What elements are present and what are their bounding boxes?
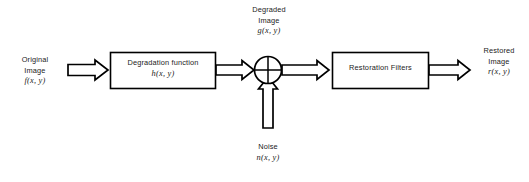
restored-image-label-line2: Image [472, 57, 526, 68]
arrow-degradation-to-junction [216, 61, 254, 80]
arrow-noise-to-junction [259, 77, 278, 128]
original-image-label-math: f(x, y) [4, 76, 66, 87]
restoration-filters-line1: Restoration Filters [332, 62, 429, 73]
original-image-label: Original Image f(x, y) [4, 55, 66, 87]
original-image-label-line2: Image [4, 66, 66, 77]
image-restoration-diagram: Original Image f(x, y) Degradation funct… [0, 0, 529, 182]
arrow-restoration-to-output [429, 61, 470, 80]
noise-label-line1: Noise [237, 142, 299, 153]
degraded-image-label-line1: Degraded [238, 5, 300, 16]
degradation-function-line1: Degradation function [110, 57, 216, 68]
degraded-image-label: Degraded Image g(x, y) [238, 5, 300, 37]
degradation-function-text: Degradation function h(x, y) [110, 57, 216, 79]
restored-image-label-line1: Restored [472, 46, 526, 57]
restored-image-label: Restored Image r(x, y) [472, 46, 526, 78]
degraded-image-label-line2: Image [238, 16, 300, 27]
original-image-label-line1: Original [4, 55, 66, 66]
degraded-image-label-math: g(x, y) [238, 26, 300, 37]
arrow-junction-to-restoration [282, 61, 329, 80]
noise-label: Noise n(x, y) [237, 142, 299, 163]
restoration-filters-text: Restoration Filters [332, 62, 429, 73]
restored-image-label-math: r(x, y) [472, 67, 526, 78]
arrow-input-to-degradation [68, 60, 108, 80]
degradation-function-math: h(x, y) [110, 68, 216, 79]
noise-label-math: n(x, y) [237, 153, 299, 164]
